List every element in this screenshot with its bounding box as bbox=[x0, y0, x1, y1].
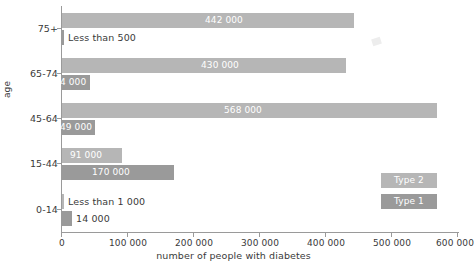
x-tick-200000 bbox=[193, 233, 194, 237]
bar-0-14-type1[interactable] bbox=[62, 211, 72, 226]
bar-label-65-74-type2: 430 000 bbox=[201, 58, 239, 73]
bar-label-75plus-type2: 442 000 bbox=[205, 13, 243, 28]
x-tick-500000 bbox=[391, 233, 392, 237]
legend-item-type1[interactable]: Type 1 bbox=[381, 194, 437, 209]
bar-label-0-14-type2: Less than 1 000 bbox=[68, 194, 145, 209]
x-label-0: 0 bbox=[59, 238, 65, 248]
x-label-400000: 400 000 bbox=[307, 238, 345, 248]
legend-item-type2[interactable]: Type 2 bbox=[381, 173, 437, 188]
y-label-75plus: 75+ bbox=[38, 23, 58, 34]
y-axis-title: age bbox=[2, 81, 12, 98]
bar-label-45-64-type1: 49 000 bbox=[60, 120, 92, 135]
x-tick-100000 bbox=[127, 233, 128, 237]
y-label-45-64: 45-64 bbox=[30, 113, 58, 124]
scan-artifact bbox=[371, 37, 382, 46]
x-label-200000: 200 000 bbox=[175, 238, 213, 248]
x-label-100000: 100 000 bbox=[109, 238, 147, 248]
legend: Type 2 Type 1 bbox=[381, 173, 437, 215]
legend-label-type1: Type 1 bbox=[381, 194, 437, 209]
x-tick-400000 bbox=[325, 233, 326, 237]
bar-75plus-type1[interactable] bbox=[62, 30, 64, 45]
x-tick-0 bbox=[61, 233, 62, 237]
x-label-500000: 500 000 bbox=[373, 238, 411, 248]
x-tick-600000 bbox=[457, 233, 458, 237]
bar-label-45-64-type2: 568 000 bbox=[224, 103, 262, 118]
bar-0-14-type2[interactable] bbox=[62, 194, 64, 209]
bar-label-75plus-type1: Less than 500 bbox=[68, 30, 136, 45]
x-label-300000: 300 000 bbox=[241, 238, 279, 248]
x-tick-300000 bbox=[259, 233, 260, 237]
y-label-65-74: 65-74 bbox=[30, 68, 58, 79]
y-label-15-44: 15-44 bbox=[30, 158, 58, 169]
bar-label-65-74-type1: 4 000 bbox=[60, 75, 86, 90]
legend-label-type2: Type 2 bbox=[381, 173, 437, 188]
x-axis-title: number of people with diabetes bbox=[0, 250, 467, 261]
bar-label-0-14-type1: 14 000 bbox=[76, 211, 110, 226]
bar-label-15-44-type1: 170 000 bbox=[92, 165, 130, 180]
x-label-600000: 600 000 bbox=[436, 238, 474, 248]
bar-label-15-44-type2: 91 000 bbox=[70, 148, 102, 163]
y-label-0-14: 0-14 bbox=[36, 204, 58, 215]
